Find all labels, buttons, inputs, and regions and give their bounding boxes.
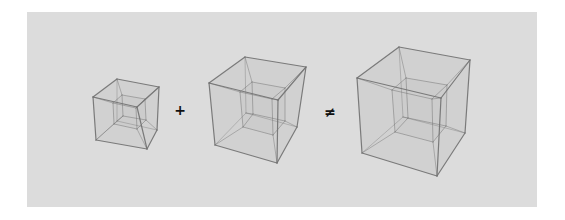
small-tesseract — [93, 79, 159, 149]
plus-operator: + — [174, 103, 186, 117]
tesseract-diagram — [0, 0, 565, 220]
medium-tesseract — [209, 57, 306, 163]
large-tesseract — [357, 47, 470, 176]
not-equal-operator: ≠ — [324, 105, 336, 119]
